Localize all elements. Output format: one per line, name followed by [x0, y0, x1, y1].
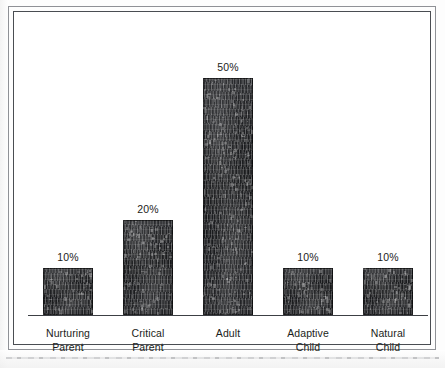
category-label-line-1: Natural: [371, 327, 406, 339]
bar-critical-parent: [123, 220, 173, 315]
bar-texture-speckle: [283, 268, 333, 315]
category-label-line-2: Parent: [102, 341, 194, 355]
bar-value-label: 20%: [108, 203, 188, 215]
bar-natural-child: [363, 268, 413, 315]
bar-column-adult: 50% Adult: [188, 12, 268, 344]
bar-texture-speckle: [363, 268, 413, 315]
bar-adult: [203, 78, 253, 315]
chart-plot-area: 10% Nurturing Parent 20% Critical Parent…: [14, 12, 430, 344]
bar-column-critical-parent: 20% Critical Parent: [108, 12, 188, 344]
category-label-line-2: Child: [262, 341, 354, 355]
bar-column-nurturing-parent: 10% Nurturing Parent: [28, 12, 108, 344]
bar-category-label-critical-parent: Critical Parent: [102, 327, 194, 354]
bar-category-label-natural-child: Natural Child: [342, 327, 434, 354]
scan-artifact-line: [6, 357, 439, 359]
chart-page: 10% Nurturing Parent 20% Critical Parent…: [0, 0, 445, 368]
bar-value-label: 10%: [348, 251, 428, 263]
bar-texture-speckle: [203, 78, 253, 315]
bar-nurturing-parent: [43, 268, 93, 315]
category-label-line-2: Child: [342, 341, 434, 355]
bar-texture-speckle: [43, 268, 93, 315]
category-label-line-1: Adaptive: [287, 327, 329, 339]
bar-value-label: 10%: [28, 251, 108, 263]
bar-adaptive-child: [283, 268, 333, 315]
category-label-line-1: Adult: [216, 327, 240, 339]
bar-value-label: 50%: [188, 61, 268, 73]
bar-category-label-nurturing-parent: Nurturing Parent: [22, 327, 114, 354]
category-label-line-2: Parent: [22, 341, 114, 355]
bar-value-label: 10%: [268, 251, 348, 263]
category-label-line-1: Critical: [132, 327, 165, 339]
chart-bar-group: 10% Nurturing Parent 20% Critical Parent…: [28, 12, 428, 344]
category-label-line-1: Nurturing: [46, 327, 90, 339]
bar-category-label-adult: Adult: [182, 327, 274, 341]
bar-texture-speckle: [123, 220, 173, 315]
bar-column-natural-child: 10% Natural Child: [348, 12, 428, 344]
bar-category-label-adaptive-child: Adaptive Child: [262, 327, 354, 354]
bar-column-adaptive-child: 10% Adaptive Child: [268, 12, 348, 344]
